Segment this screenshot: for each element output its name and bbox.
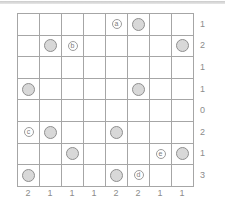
- circle-token[interactable]: [110, 169, 123, 182]
- grid-cell[interactable]: [106, 165, 128, 187]
- grid-cell[interactable]: [128, 122, 150, 144]
- grid-cell[interactable]: [128, 36, 150, 58]
- grid-cell[interactable]: [106, 57, 128, 79]
- grid-cell[interactable]: [62, 144, 84, 166]
- grid-cell[interactable]: [84, 79, 106, 101]
- grid-cell[interactable]: [172, 122, 194, 144]
- grid-cell[interactable]: [18, 14, 40, 36]
- circle-token[interactable]: [22, 83, 35, 96]
- grid-cell[interactable]: [40, 14, 62, 36]
- col-clue: 1: [61, 186, 83, 199]
- grid-cell[interactable]: [128, 79, 150, 101]
- puzzle-grid[interactable]: abced: [17, 13, 194, 187]
- grid-cell[interactable]: [172, 144, 194, 166]
- grid-cell[interactable]: [150, 122, 172, 144]
- grid-cell[interactable]: [106, 122, 128, 144]
- circle-token[interactable]: [132, 18, 145, 31]
- row-clue: 1: [194, 56, 211, 78]
- grid-cell[interactable]: [18, 100, 40, 122]
- col-clue: 1: [171, 186, 193, 199]
- grid-cell[interactable]: [150, 100, 172, 122]
- circle-token[interactable]: [176, 39, 189, 52]
- letter-badge[interactable]: a: [112, 19, 122, 29]
- letter-badge[interactable]: b: [68, 41, 78, 51]
- col-clue: 2: [105, 186, 127, 199]
- grid-cell[interactable]: [150, 14, 172, 36]
- grid-cell[interactable]: [150, 165, 172, 187]
- circle-token[interactable]: [44, 39, 57, 52]
- grid-cell[interactable]: [62, 57, 84, 79]
- grid-cell[interactable]: [18, 79, 40, 101]
- grid-cell[interactable]: [62, 79, 84, 101]
- grid-cell[interactable]: [84, 122, 106, 144]
- grid-cell[interactable]: [18, 165, 40, 187]
- grid-cell[interactable]: [84, 144, 106, 166]
- grid-cell[interactable]: [128, 144, 150, 166]
- grid-cell[interactable]: [62, 14, 84, 36]
- circle-token[interactable]: [110, 126, 123, 139]
- row-clue: 0: [194, 99, 211, 121]
- grid-cell[interactable]: c: [18, 122, 40, 144]
- grid-cell[interactable]: [84, 57, 106, 79]
- col-clues: 21112211: [17, 186, 193, 199]
- grid-cell[interactable]: [62, 165, 84, 187]
- row-clue: 2: [194, 35, 211, 57]
- row-clues: 12110213: [194, 13, 211, 186]
- grid-cell[interactable]: [106, 36, 128, 58]
- grid-cell[interactable]: [172, 79, 194, 101]
- grid-cell[interactable]: [40, 79, 62, 101]
- letter-badge[interactable]: e: [156, 149, 166, 159]
- grid-cell[interactable]: [18, 57, 40, 79]
- grid-cell[interactable]: [150, 57, 172, 79]
- grid-cell[interactable]: [40, 144, 62, 166]
- grid-cell[interactable]: [84, 14, 106, 36]
- grid-cell[interactable]: b: [62, 36, 84, 58]
- top-divider: [0, 1, 225, 4]
- row-clue: 1: [194, 143, 211, 165]
- row-clue: 1: [194, 78, 211, 100]
- grid-cell[interactable]: [172, 165, 194, 187]
- row-clue: 1: [194, 13, 211, 35]
- grid-cell[interactable]: [128, 100, 150, 122]
- grid-cell[interactable]: [150, 36, 172, 58]
- row-clue: 2: [194, 121, 211, 143]
- grid-cell[interactable]: e: [150, 144, 172, 166]
- grid-cell[interactable]: [40, 122, 62, 144]
- grid-cell[interactable]: d: [128, 165, 150, 187]
- grid-cell[interactable]: [40, 100, 62, 122]
- grid-cell[interactable]: [40, 165, 62, 187]
- grid-cell[interactable]: [18, 144, 40, 166]
- col-clue: 1: [39, 186, 61, 199]
- grid-cell[interactable]: [62, 122, 84, 144]
- grid-cell[interactable]: [106, 100, 128, 122]
- grid-cell[interactable]: [84, 36, 106, 58]
- letter-badge[interactable]: d: [134, 170, 144, 180]
- circle-token[interactable]: [22, 169, 35, 182]
- grid-cell[interactable]: [172, 57, 194, 79]
- row-clue: 3: [194, 164, 211, 186]
- grid-cell[interactable]: [150, 79, 172, 101]
- col-clue: 1: [83, 186, 105, 199]
- grid-cell[interactable]: [84, 100, 106, 122]
- grid-cell[interactable]: [172, 14, 194, 36]
- grid-cell[interactable]: [40, 57, 62, 79]
- grid-cell[interactable]: [172, 36, 194, 58]
- grid-cell[interactable]: [18, 36, 40, 58]
- grid-cell[interactable]: [106, 144, 128, 166]
- col-clue: 2: [17, 186, 39, 199]
- grid-cell[interactable]: [84, 165, 106, 187]
- grid-cell[interactable]: [106, 79, 128, 101]
- letter-badge[interactable]: c: [24, 127, 34, 137]
- grid-cell[interactable]: [172, 100, 194, 122]
- grid-cell[interactable]: [62, 100, 84, 122]
- grid-cell[interactable]: [40, 36, 62, 58]
- puzzle-screen: abced 12110213 21112211: [0, 0, 225, 204]
- circle-token[interactable]: [176, 147, 189, 160]
- circle-token[interactable]: [132, 83, 145, 96]
- circle-token[interactable]: [66, 147, 79, 160]
- grid-cell[interactable]: a: [106, 14, 128, 36]
- grid-cell[interactable]: [128, 57, 150, 79]
- circle-token[interactable]: [44, 126, 57, 139]
- grid-cell[interactable]: [128, 14, 150, 36]
- col-clue: 1: [149, 186, 171, 199]
